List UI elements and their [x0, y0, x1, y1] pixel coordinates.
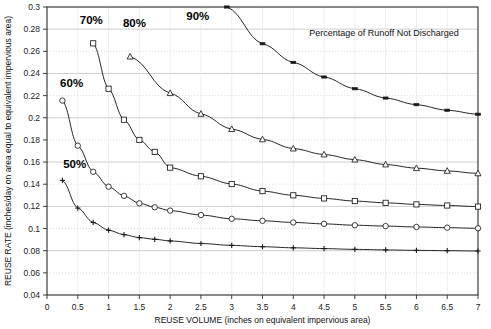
data-point-marker [291, 193, 296, 198]
x-axis-tick-label: 4 [291, 302, 296, 312]
x-axis-tick-label: 5.5 [380, 302, 392, 312]
data-point-marker [137, 137, 142, 142]
data-point-marker [383, 223, 388, 228]
y-axis-tick-label: 0.2 [28, 113, 40, 123]
x-axis-tick-label: 1.5 [133, 302, 145, 312]
data-point-marker [260, 43, 265, 45]
y-axis-tick-label: 0.18 [23, 135, 40, 145]
data-point-marker [445, 203, 450, 208]
chart-annotation: Percentage of Runoff Not Discharged [309, 28, 458, 38]
x-axis-tick-label: 1 [106, 302, 111, 312]
data-point-marker [414, 104, 419, 106]
y-axis-tick-label: 0.06 [23, 268, 40, 278]
series-label-50: 50% [63, 158, 86, 170]
data-point-marker [137, 201, 142, 206]
x-axis-tick-label: 3.5 [257, 302, 269, 312]
y-axis-tick-label: 0.22 [23, 91, 40, 101]
x-axis-title: REUSE VOLUME (inches on equivalent imper… [155, 315, 371, 325]
chart-canvas: 0.040.060.080.10.120.140.160.180.20.220.… [0, 0, 491, 329]
data-point-marker [445, 225, 450, 230]
y-axis-tick-label: 0.24 [23, 68, 40, 78]
data-point-marker [321, 221, 326, 226]
data-point-marker [260, 218, 265, 223]
x-axis-tick-label: 5 [352, 302, 357, 312]
x-axis-tick-label: 3 [229, 302, 234, 312]
data-point-marker [383, 200, 388, 205]
series-label-60: 60% [60, 77, 83, 89]
x-axis-tick-label: 6.5 [441, 302, 453, 312]
y-axis-tick-label: 0.26 [23, 46, 40, 56]
data-point-marker [60, 98, 65, 103]
data-point-marker [121, 117, 126, 122]
y-axis-tick-label: 0.28 [23, 24, 40, 34]
y-axis-tick-label: 0.3 [28, 2, 40, 12]
series-label-80: 80% [123, 17, 146, 29]
y-axis-tick-label: 0.1 [28, 224, 40, 234]
data-point-marker [229, 181, 234, 186]
data-point-marker [445, 109, 450, 111]
data-point-marker [168, 165, 173, 170]
data-point-marker [224, 6, 229, 8]
y-axis-tick-label: 0.08 [23, 246, 40, 256]
y-axis-tick-label: 0.14 [23, 179, 40, 189]
data-point-marker [152, 149, 157, 154]
series-label-90: 90% [186, 10, 209, 22]
data-point-marker [476, 113, 481, 115]
data-point-marker [352, 198, 357, 203]
y-axis-tick-label: 0.16 [23, 157, 40, 167]
x-axis-tick-label: 0.5 [72, 302, 84, 312]
x-axis-tick-label: 2.5 [195, 302, 207, 312]
series-label-70: 70% [80, 14, 103, 26]
data-point-marker [322, 76, 327, 78]
y-axis-title: REUSE RATE (inches/day on area equal to … [3, 16, 13, 286]
data-point-marker [352, 223, 357, 228]
data-point-marker [90, 169, 95, 174]
data-point-marker [291, 220, 296, 225]
data-point-marker [167, 208, 172, 213]
data-point-marker [414, 224, 419, 229]
x-axis-tick-label: 0 [45, 302, 50, 312]
data-point-marker [121, 193, 126, 198]
data-point-marker [106, 184, 111, 189]
data-point-marker [414, 202, 419, 207]
x-axis-tick-label: 2 [168, 302, 173, 312]
data-point-marker [106, 86, 111, 91]
reuse-rate-chart: 0.040.060.080.10.120.140.160.180.20.220.… [0, 0, 491, 329]
data-point-marker [352, 88, 357, 90]
data-point-marker [291, 61, 296, 63]
y-axis-tick-label: 0.12 [23, 201, 40, 211]
data-point-marker [321, 196, 326, 201]
data-point-marker [475, 204, 480, 209]
data-point-marker [260, 188, 265, 193]
data-point-marker [198, 212, 203, 217]
data-point-marker [75, 143, 80, 148]
x-axis-tick-label: 7 [476, 302, 481, 312]
data-point-marker [152, 205, 157, 210]
data-point-marker [383, 97, 388, 99]
x-axis-tick-label: 4.5 [318, 302, 330, 312]
x-axis-tick-label: 6 [414, 302, 419, 312]
data-point-marker [475, 226, 480, 231]
y-axis-tick-label: 0.04 [23, 290, 40, 300]
data-point-marker [198, 174, 203, 179]
data-point-marker [229, 216, 234, 221]
data-point-marker [91, 41, 96, 46]
